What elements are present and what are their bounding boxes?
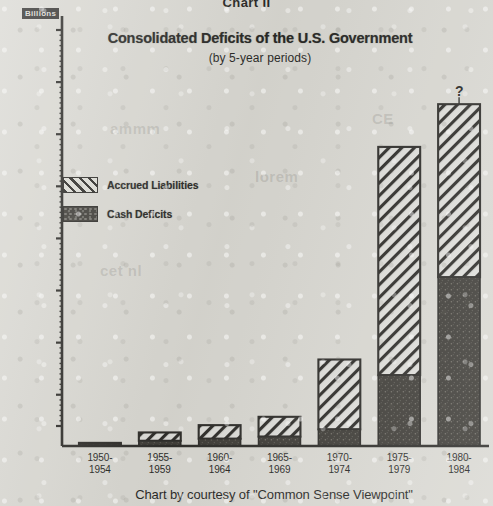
- bar-segment-accrued-1980-1984: [438, 104, 480, 277]
- uncertainty-annotation: ?: [455, 83, 464, 99]
- x-tick-line2: 1979: [369, 464, 429, 476]
- x-tick-line1: 1950-: [70, 452, 130, 464]
- x-tick-line1: 1980-: [429, 452, 489, 464]
- bar-segment-accrued-1955-1959: [139, 432, 181, 440]
- chart-number-header: Chart II: [0, 0, 493, 10]
- x-tick-line2: 1964: [190, 464, 250, 476]
- x-tick-1960-1964: 1960-1964: [190, 452, 250, 475]
- x-tick-1965-1969: 1965-1969: [250, 452, 310, 475]
- legend-label-accrued-liabilities: Accrued Liabilities: [107, 179, 198, 191]
- legend: Accrued Liabilities Cash Deficits: [63, 177, 198, 235]
- bar-segment-cash-1965-1969: [259, 437, 301, 446]
- x-tick-line2: 1974: [309, 464, 369, 476]
- bar-segment-accrued-1960-1964: [199, 425, 241, 439]
- bar-1955-1959: [139, 432, 181, 446]
- x-tick-line1: 1965-: [250, 452, 310, 464]
- x-tick-1955-1959: 1955-1959: [130, 452, 190, 475]
- bar-segment-cash-1970-1974: [318, 429, 360, 446]
- x-tick-1970-1974: 1970-1974: [309, 452, 369, 475]
- bar-1965-1969: [259, 417, 301, 446]
- x-tick-line1: 1975-: [369, 452, 429, 464]
- legend-item-accrued-liabilities: Accrued Liabilities: [63, 177, 198, 193]
- legend-item-cash-deficits: Cash Deficits: [63, 206, 198, 222]
- x-axis-tick-labels: 1950-19541955-19591960-19641965-19691970…: [0, 452, 493, 482]
- x-tick-1950-1954: 1950-1954: [70, 452, 130, 475]
- bar-segment-cash-1980-1984: [438, 277, 480, 446]
- chart-subtitle: (by 5-year periods): [60, 51, 460, 65]
- x-tick-line1: 1960-: [190, 452, 250, 464]
- x-tick-line2: 1969: [250, 464, 310, 476]
- x-tick-1980-1984: 1980-1984: [429, 452, 489, 475]
- x-tick-1975-1979: 1975-1979: [369, 452, 429, 475]
- bar-1975-1979: [378, 147, 420, 446]
- bar-segment-accrued-1975-1979: [378, 147, 420, 375]
- legend-label-cash-deficits: Cash Deficits: [107, 208, 172, 220]
- x-tick-line1: 1955-: [130, 452, 190, 464]
- x-tick-line2: 1954: [70, 464, 130, 476]
- x-tick-line2: 1984: [429, 464, 489, 476]
- page-title: Consolidated Deficits of the U.S. Govern…: [60, 30, 460, 46]
- bar-segment-cash-1975-1979: [378, 375, 420, 446]
- x-tick-line1: 1970-: [309, 452, 369, 464]
- bar-1960-1964: [199, 425, 241, 446]
- title-block: Consolidated Deficits of the U.S. Govern…: [60, 30, 460, 65]
- y-axis-tick-labels: 1002505007501,0001,2501,5001,7502,000: [0, 0, 62, 506]
- bar-1980-1984: [438, 104, 480, 446]
- accrued-liabilities-swatch-icon: [63, 177, 98, 193]
- bar-segment-accrued-1970-1974: [318, 360, 360, 430]
- cash-deficits-swatch-icon: [63, 206, 98, 222]
- bar-1970-1974: [318, 360, 360, 446]
- chart-credit-line: Chart by courtesy of "Common Sense Viewp…: [0, 487, 493, 502]
- bar-segment-accrued-1965-1969: [259, 417, 301, 437]
- chart-plot-area: [0, 0, 493, 506]
- x-tick-line2: 1959: [130, 464, 190, 476]
